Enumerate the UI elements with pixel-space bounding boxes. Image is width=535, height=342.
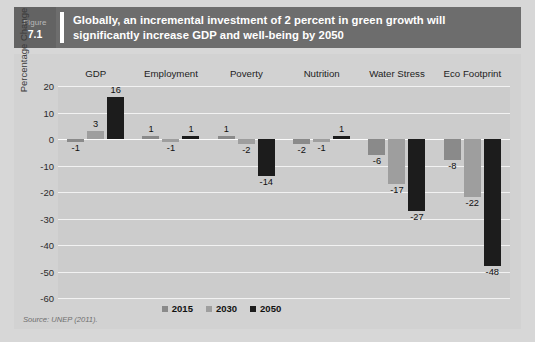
bar-2015[interactable] <box>444 139 461 160</box>
bar-2050[interactable] <box>484 139 501 266</box>
bar-2030[interactable] <box>87 131 104 139</box>
gridline <box>58 298 510 299</box>
bar-group: Nutrition-2-11 <box>284 86 359 298</box>
bar-group: Employment1-11 <box>133 86 208 298</box>
bar-value-label: -1 <box>302 143 342 153</box>
legend-label: 2030 <box>216 303 237 314</box>
bar-2050[interactable] <box>408 139 425 211</box>
bar-group: Poverty1-2-14 <box>209 86 284 298</box>
y-axis-tick-label: -10 <box>14 160 54 171</box>
legend-label: 2050 <box>260 303 281 314</box>
figure-container: Figure 7.1 Globally, an incremental inve… <box>0 0 535 342</box>
bar-2015[interactable] <box>368 139 385 155</box>
bar-value-label: 1 <box>322 124 362 134</box>
y-axis-tick-label: -50 <box>14 266 54 277</box>
y-axis-tick-label: 20 <box>14 81 54 92</box>
bar-value-label: 16 <box>96 85 136 95</box>
bar-value-label: -27 <box>397 212 437 222</box>
figure-number: 7.1 <box>28 28 43 40</box>
chart-panel: Percentage Change 20100-10-20-30-40-50-6… <box>14 54 521 329</box>
bar-2050[interactable] <box>333 136 350 139</box>
bar-2030[interactable] <box>464 139 481 197</box>
figure-title-banner: Figure 7.1 Globally, an incremental inve… <box>14 7 521 48</box>
legend-swatch-icon <box>250 306 256 312</box>
bar-value-label: -1 <box>151 143 191 153</box>
bar-value-label: -48 <box>472 267 512 277</box>
bar-group: GDP-1316 <box>58 86 133 298</box>
bar-value-label: 1 <box>206 124 246 134</box>
title-divider-rule <box>60 12 64 43</box>
category-label: GDP <box>58 68 133 79</box>
bar-value-label: -14 <box>246 177 286 187</box>
bar-2030[interactable] <box>313 139 330 142</box>
y-axis-tick-label: -20 <box>14 187 54 198</box>
bar-value-label: 1 <box>131 124 171 134</box>
legend-swatch-icon <box>162 306 168 312</box>
bar-2030[interactable] <box>238 139 255 144</box>
bar-2030[interactable] <box>388 139 405 184</box>
bar-2050[interactable] <box>107 97 124 139</box>
plot-area: GDP-1316Employment1-11Poverty1-2-14Nutri… <box>58 86 510 298</box>
category-label: Poverty <box>209 68 284 79</box>
y-axis-tick-label: 10 <box>14 107 54 118</box>
chart-legend: 201520302050 <box>14 303 521 314</box>
bar-value-label: -1 <box>56 143 96 153</box>
bar-group: Eco Footprint-8-22-48 <box>435 86 510 298</box>
bar-value-label: 1 <box>171 124 211 134</box>
category-label: Nutrition <box>284 68 359 79</box>
figure-title-text: Globally, an incremental investment of 2… <box>73 7 521 48</box>
bar-group: Water Stress-6-17-27 <box>359 86 434 298</box>
source-note: Source: UNEP (2011). <box>23 315 98 324</box>
bar-2030[interactable] <box>162 139 179 142</box>
y-axis-tick-label: 0 <box>14 134 54 145</box>
bar-2050[interactable] <box>182 136 199 139</box>
legend-item-2030[interactable]: 2030 <box>206 303 237 314</box>
category-label: Employment <box>133 68 208 79</box>
category-label: Eco Footprint <box>435 68 510 79</box>
bar-2015[interactable] <box>142 136 159 139</box>
legend-item-2015[interactable]: 2015 <box>162 303 193 314</box>
y-axis-tick-label: -40 <box>14 240 54 251</box>
legend-swatch-icon <box>206 306 212 312</box>
bar-2015[interactable] <box>67 139 84 142</box>
bar-2015[interactable] <box>218 136 235 139</box>
legend-item-2050[interactable]: 2050 <box>250 303 281 314</box>
category-label: Water Stress <box>359 68 434 79</box>
y-axis-tick-labels: 20100-10-20-30-40-50-60 <box>14 86 54 298</box>
bar-2050[interactable] <box>258 139 275 176</box>
y-axis-tick-label: -30 <box>14 213 54 224</box>
legend-label: 2015 <box>172 303 193 314</box>
y-axis-tick-label: -60 <box>14 293 54 304</box>
